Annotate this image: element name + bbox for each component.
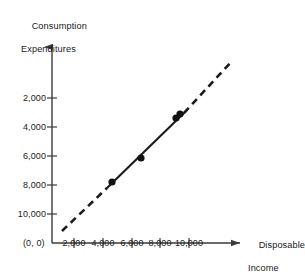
y-tick-label: 6,000 bbox=[2, 151, 46, 162]
x-axis-title-line1: Disposable bbox=[259, 240, 305, 250]
y-tick-label: 10,000 bbox=[2, 209, 46, 220]
y-axis-title-line1: Consumption bbox=[32, 21, 87, 31]
data-series-group bbox=[62, 61, 232, 231]
regression-line-solid bbox=[107, 113, 184, 188]
regression-line-dashed-lower bbox=[62, 188, 107, 231]
y-axis-title-line2: Expenditures bbox=[21, 44, 87, 56]
data-point bbox=[137, 154, 144, 161]
y-axis-title: Consumption Expenditures bbox=[21, 9, 87, 78]
x-axis-title: Disposable Income bbox=[248, 228, 305, 275]
x-axis-title-line2: Income bbox=[248, 263, 305, 275]
x-tick-label: 10,000 bbox=[172, 238, 206, 249]
data-point bbox=[108, 178, 115, 185]
y-tick-label: 2,000 bbox=[2, 93, 46, 104]
regression-line-dashed-upper bbox=[184, 61, 232, 113]
y-tick-label: 4,000 bbox=[2, 122, 46, 133]
y-tick-label: 8,000 bbox=[2, 180, 46, 191]
data-point bbox=[176, 110, 183, 117]
origin-label: (0, 0) bbox=[23, 238, 45, 249]
